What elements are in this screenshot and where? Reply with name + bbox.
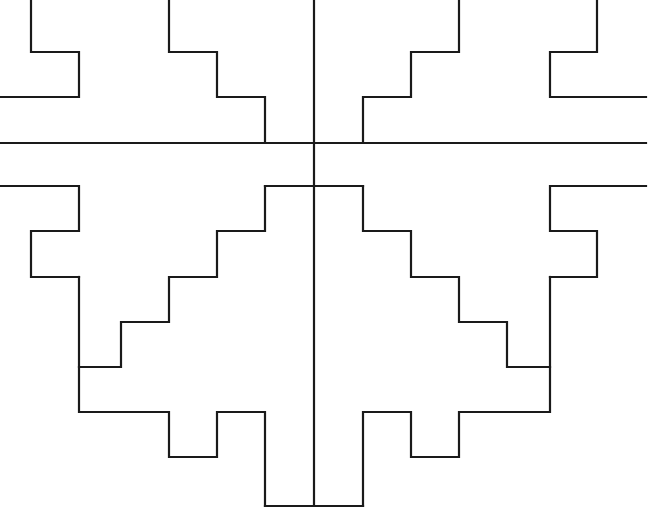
diagram-canvas xyxy=(0,0,650,510)
stepped-symmetric-figure xyxy=(0,0,650,510)
background-rect xyxy=(0,0,650,510)
